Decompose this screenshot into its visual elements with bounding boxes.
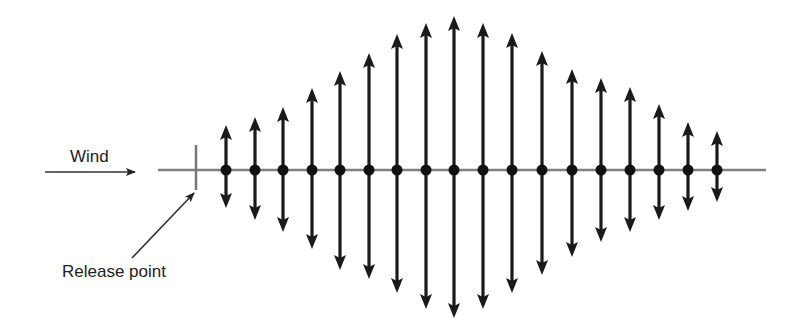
oscillation-arrow: [566, 69, 578, 257]
oscillation-arrow: [595, 78, 607, 242]
oscillation-arrow: [536, 51, 548, 275]
particle-dot: [683, 165, 694, 176]
particle-dot: [449, 165, 460, 176]
oscillation-arrow: [306, 88, 318, 249]
particle-dot: [307, 165, 318, 176]
oscillation-arrow: [277, 107, 289, 232]
particle-dot: [654, 165, 665, 176]
oscillation-arrow: [506, 33, 518, 293]
oscillation-arrow: [477, 23, 489, 309]
particle-dot: [421, 165, 432, 176]
particle-dot: [567, 165, 578, 176]
plume-dispersion-diagram: Wind Release point: [0, 0, 802, 332]
oscillation-arrow: [711, 131, 723, 202]
release-pointer-arrow-icon: [132, 193, 194, 258]
oscillation-arrow: [682, 122, 694, 211]
oscillation-arrow: [653, 104, 665, 220]
particle-dot: [712, 165, 723, 176]
particle-dot: [250, 165, 261, 176]
particle-dot: [221, 165, 232, 176]
particle-dot: [537, 165, 548, 176]
oscillation-arrow: [363, 53, 375, 279]
particle-dot: [335, 165, 346, 176]
oscillation-arrow: [334, 71, 346, 270]
particle-dot: [625, 165, 636, 176]
oscillation-arrow: [391, 34, 403, 293]
oscillation-arrow: [420, 23, 432, 309]
oscillation-arrow: [249, 117, 261, 220]
particle-dot: [364, 165, 375, 176]
particle-dot: [278, 165, 289, 176]
oscillation-arrow: [448, 16, 460, 318]
release-point-label: Release point: [62, 262, 166, 281]
oscillation-arrow: [220, 125, 232, 208]
oscillation-arrow: [624, 87, 636, 232]
particle-dot: [507, 165, 518, 176]
particle-dot: [478, 165, 489, 176]
oscillation-arrows: [220, 16, 723, 318]
particle-dot: [392, 165, 403, 176]
wind-label: Wind: [70, 147, 109, 166]
particle-dot: [596, 165, 607, 176]
